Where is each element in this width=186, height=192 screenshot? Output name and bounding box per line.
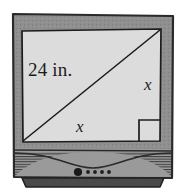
- diagonal-length-label: 24 in.: [28, 60, 72, 79]
- side-label-bottom: x: [76, 118, 84, 135]
- indicator-dot-icon: [86, 170, 90, 174]
- indicator-dot-icon: [107, 170, 111, 174]
- tv-base-foot: [22, 178, 164, 187]
- speaker-panel: [15, 148, 171, 177]
- tv-base: [22, 178, 164, 187]
- tv-diagonal-figure: 24 in. x x: [0, 0, 186, 192]
- tv-screen: [22, 29, 161, 142]
- front-panel-top-edge: [15, 150, 171, 151]
- power-button-icon[interactable]: [74, 168, 82, 176]
- side-label-right: x: [144, 76, 152, 93]
- indicator-dot-icon: [100, 170, 104, 174]
- indicator-dot-icon: [93, 170, 97, 174]
- television-illustration: [0, 0, 186, 192]
